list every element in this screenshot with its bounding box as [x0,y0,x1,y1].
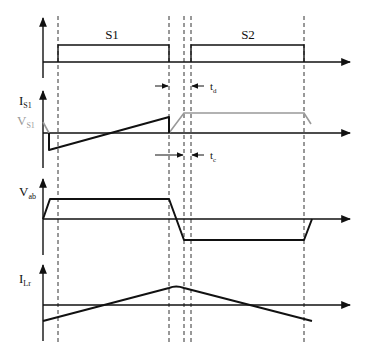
is1-label: IS1 [19,93,32,110]
ilr-waveform [43,287,312,322]
vs1-waveform-start [43,122,49,133]
dashed-reference-lines [58,16,304,345]
vab-label: Vab [19,184,36,201]
td-label: td [210,80,217,95]
s2-label: S2 [241,27,255,42]
td-annotation: td [155,80,217,95]
vs1-waveform [169,113,311,133]
s1-pulse [58,45,169,62]
tc-annotation: tc [155,149,216,164]
vs1-label: VS1 [17,113,35,130]
s1-label: S1 [105,27,119,42]
ilr-label: ILr [19,271,31,288]
s2-pulse [191,45,304,62]
tc-label: tc [210,149,216,164]
timing-diagram: S1 S2 td IS1 VS1 tc [0,0,368,357]
